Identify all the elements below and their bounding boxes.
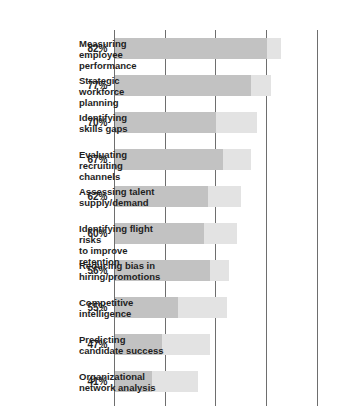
category-label: Competitive intelligence [79,297,165,319]
category-label: Predicting candidate success [79,334,165,356]
category-label: Identifying skills gaps [79,112,165,134]
bar-segment-upper [217,112,258,133]
bar-segment-upper [267,38,281,59]
chart-plot-area: 0%25%50%75%100% 82%77%70%67%62%60%56%55%… [0,0,338,414]
chart-figure: 0%25%50%75%100% 82%77%70%67%62%60%56%55%… [0,0,338,414]
bar-segment-upper [162,334,211,355]
bar-segment-upper [208,186,240,207]
bar-segment-upper [223,149,251,170]
bar-segment-upper [251,75,271,96]
category-label: Measuring employee performance [79,38,165,71]
bar-segment-upper [178,297,227,318]
bar-segment-upper [204,223,236,244]
category-label: Evaluating recruiting channels [79,149,165,182]
category-label: Assessing talent supply/demand [79,186,165,208]
category-label: Organizational network analysis [79,371,165,393]
category-label: Reducing bias in hiring/promotions [79,260,165,282]
category-label: Strategic workforce planning [79,75,165,108]
bar-segment-upper [210,260,228,281]
